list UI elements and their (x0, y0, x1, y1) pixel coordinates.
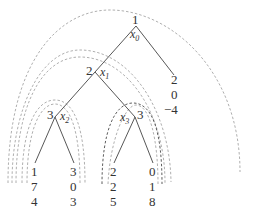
leaf-value: 0 (149, 164, 156, 179)
tree-edge-n3-leaf-x3-right (135, 117, 153, 163)
leaf-value: 0 (70, 179, 77, 194)
arc-root (8, 10, 240, 183)
leaf-value: 5 (110, 194, 117, 209)
node-x2-var: x2 (59, 109, 69, 125)
leaf-value: 2 (110, 179, 117, 194)
node-x2-value: 3 (47, 107, 54, 122)
game-tree-diagram: 1 x0 2 x1 3 x2 3 x3 2 0 −4 1 7 4 3 0 3 2… (0, 0, 254, 217)
leaf-x3-right: 0 1 8 (149, 164, 156, 209)
leaf-value: 4 (31, 194, 38, 209)
tree-edge-n2-leaf-x2-left (35, 117, 55, 163)
leaf-value: 3 (70, 164, 77, 179)
leaf-value: 3 (70, 194, 77, 209)
leaf-value: 2 (110, 164, 117, 179)
node-x3-value: 3 (137, 107, 144, 122)
leaf-x2-right: 3 0 3 (70, 164, 77, 209)
leaf-value: 1 (31, 164, 38, 179)
leaf-value: −4 (164, 102, 178, 117)
leaf-root-right: 2 0 −4 (164, 72, 178, 117)
leaf-value: 2 (171, 72, 178, 87)
node-x1-value: 2 (86, 63, 93, 78)
tree-edge-root-leaf-root-right (136, 26, 174, 75)
node-x3-var: x3 (119, 110, 129, 126)
leaf-x2-left: 1 7 4 (31, 164, 38, 209)
node-x1-var: x1 (99, 65, 109, 81)
leaf-value: 7 (31, 179, 38, 194)
node-root-var: x0 (129, 27, 139, 43)
node-root-value: 1 (132, 12, 139, 27)
leaf-value: 8 (149, 194, 156, 209)
leaf-value: 0 (171, 87, 178, 102)
leaf-x3-left: 2 2 5 (110, 164, 117, 209)
leaf-value: 1 (149, 179, 156, 194)
